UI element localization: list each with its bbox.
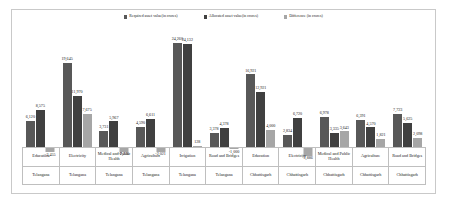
chart-plot-area: 6,1208,575-2,45519,64511,9707,6753,7315,…	[22, 30, 426, 147]
bar[interactable]	[403, 123, 412, 147]
bar-column[interactable]: 3,378	[210, 30, 219, 147]
chart-category-axis: EducationTelanganaElectricityTelanganaMe…	[22, 147, 426, 185]
bar[interactable]	[220, 128, 229, 147]
bar-group: 7,7235,6252,098	[389, 30, 426, 147]
bar[interactable]	[330, 133, 339, 147]
axis-column: Road and BridgesChhattisgarh	[388, 147, 426, 185]
bar-column[interactable]: 6,978	[320, 30, 329, 147]
chart-legend: Required asset value(in crores)Allocated…	[12, 15, 435, 19]
bar-value-label: 6,978	[320, 111, 329, 115]
axis-column: AgricultureChhattisgarh	[352, 147, 389, 185]
bar-value-label: 6,391	[356, 114, 365, 118]
bar[interactable]	[320, 117, 329, 147]
bar-column[interactable]: 8,575	[36, 30, 45, 147]
bar-column[interactable]: 6,391	[356, 30, 365, 147]
axis-state-label: Chhattisgarh	[316, 167, 352, 186]
bar[interactable]	[293, 118, 302, 147]
bar-column[interactable]: 2,834	[283, 30, 292, 147]
bar-column[interactable]: 5,625	[403, 30, 412, 147]
bar[interactable]	[376, 139, 385, 147]
bar[interactable]	[63, 63, 72, 147]
bar-value-label: 4,570	[366, 122, 375, 126]
bar[interactable]	[210, 133, 219, 147]
bar[interactable]	[256, 92, 265, 147]
bar[interactable]	[266, 130, 275, 147]
bar-column[interactable]: 11,970	[73, 30, 82, 147]
axis-column: IrrigationTelangana	[169, 147, 206, 185]
bar-column[interactable]: -1,000	[230, 30, 239, 147]
axis-column: EducationTelangana	[22, 147, 59, 185]
bar-column[interactable]: 7,723	[393, 30, 402, 147]
bar[interactable]	[173, 43, 182, 147]
bar-value-label: 3,731	[99, 125, 108, 129]
bar[interactable]	[99, 131, 108, 147]
axis-state-label: Telangana	[206, 167, 242, 186]
axis-state-label: Telangana	[96, 167, 132, 186]
legend-item[interactable]: Difference (in crores)	[284, 15, 323, 19]
bar-value-label: 2,098	[413, 132, 422, 136]
bar-column[interactable]: 24,132	[183, 30, 192, 147]
bar-column[interactable]: 6,720	[293, 30, 302, 147]
bar[interactable]	[246, 74, 255, 147]
axis-state-label: Chhattisgarh	[243, 167, 279, 186]
bar-column[interactable]: 3,335	[330, 30, 339, 147]
bar-group: 24,26024,132128	[169, 30, 206, 147]
bar-column[interactable]: 3,643	[340, 30, 349, 147]
axis-state-label: Telangana	[133, 167, 169, 186]
bar-column[interactable]: 24,260	[173, 30, 182, 147]
bar-column[interactable]: 19,645	[63, 30, 72, 147]
chart-frame: Required asset value(in crores)Allocated…	[11, 9, 436, 194]
bar-column[interactable]: -2,236	[119, 30, 128, 147]
bar[interactable]	[136, 127, 145, 147]
bar-column[interactable]: 4,590	[136, 30, 145, 147]
axis-category-label: Education	[23, 147, 59, 167]
axis-category-label: Irrigation	[170, 147, 206, 167]
bar-column[interactable]: 3,731	[99, 30, 108, 147]
bar-column[interactable]: -2,455	[46, 30, 55, 147]
bar[interactable]	[146, 119, 155, 147]
legend-swatch-icon	[284, 15, 287, 18]
bar-group: 3,7315,967-2,236	[95, 30, 132, 147]
bar[interactable]	[366, 127, 375, 147]
bar-column[interactable]: 128	[193, 30, 202, 147]
axis-category-label: Road and Bridges	[206, 147, 242, 167]
axis-category-label: Medical and Public Health	[316, 147, 352, 167]
bar-column[interactable]: 16,921	[246, 30, 255, 147]
bar[interactable]	[283, 135, 292, 147]
bar-column[interactable]: 4,378	[220, 30, 229, 147]
bar[interactable]	[109, 121, 118, 147]
bar[interactable]	[73, 96, 82, 147]
bar-group: 6,9783,3353,643	[316, 30, 353, 147]
bar-value-label: 16,921	[245, 69, 256, 73]
bar[interactable]	[413, 138, 422, 147]
bar[interactable]	[393, 114, 402, 147]
bar-group: 19,64511,9707,675	[59, 30, 96, 147]
bar-column[interactable]: 1,821	[376, 30, 385, 147]
axis-state-label: Telangana	[170, 167, 206, 186]
bar-column[interactable]: 6,611	[146, 30, 155, 147]
bar-column[interactable]: 7,675	[83, 30, 92, 147]
bar[interactable]	[36, 110, 45, 147]
legend-item[interactable]: Required asset value(in crores)	[124, 15, 177, 19]
bar-column[interactable]: 2,098	[413, 30, 422, 147]
bar[interactable]	[83, 114, 92, 147]
bar-column[interactable]: 4,000	[266, 30, 275, 147]
axis-category-label: Education	[243, 147, 279, 167]
bar-value-label: 4,000	[266, 124, 275, 128]
bar-value-label: 3,643	[340, 126, 349, 130]
bar[interactable]	[26, 121, 35, 147]
bar-group: 4,5906,611-2,021	[132, 30, 169, 147]
bar-column[interactable]: 5,967	[109, 30, 118, 147]
axis-column: ElectricityTelangana	[59, 147, 96, 185]
bar[interactable]	[340, 131, 349, 147]
legend-label: Allocated asset value(in crores)	[209, 15, 258, 19]
bar-column[interactable]: -2,021	[156, 30, 165, 147]
bar-column[interactable]: 6,120	[26, 30, 35, 147]
bar[interactable]	[356, 120, 365, 147]
axis-column: AgricultureTelangana	[132, 147, 169, 185]
bar-column[interactable]: 12,921	[256, 30, 265, 147]
bar[interactable]	[183, 44, 192, 147]
legend-item[interactable]: Allocated asset value(in crores)	[204, 15, 258, 19]
bar-column[interactable]: 4,570	[366, 30, 375, 147]
bar-column[interactable]: -3,886	[303, 30, 312, 147]
